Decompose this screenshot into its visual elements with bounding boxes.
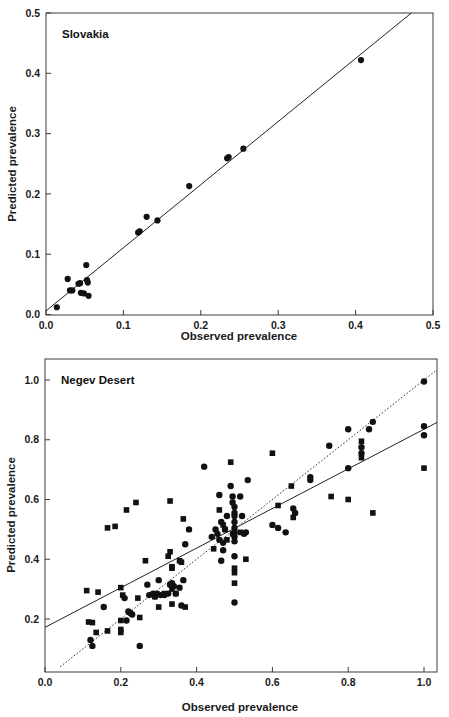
data-point-circle bbox=[54, 304, 60, 310]
data-point-square bbox=[135, 595, 141, 601]
data-point-square bbox=[181, 516, 187, 522]
data-point-square bbox=[224, 537, 230, 543]
data-point-square bbox=[167, 549, 173, 555]
data-point-square bbox=[118, 585, 124, 591]
data-point-circle bbox=[209, 534, 215, 540]
data-point-circle bbox=[231, 538, 237, 544]
data-point-square bbox=[169, 601, 175, 607]
figure-container: 0.00.10.20.30.40.50.00.10.20.30.40.5 Slo… bbox=[0, 0, 449, 717]
data-points-bottom bbox=[84, 378, 427, 649]
x-tick-label-5: 0.5 bbox=[426, 319, 441, 331]
panel-negev-desert: 0.00.20.40.60.81.00.20.40.60.81.0 Negev … bbox=[0, 345, 449, 717]
panel-slovakia: 0.00.10.20.30.40.50.00.10.20.30.40.5 Slo… bbox=[0, 0, 449, 345]
fit-lines-top bbox=[46, 13, 411, 311]
plot-svg-top: 0.00.10.20.30.40.50.00.10.20.30.40.5 Slo… bbox=[0, 0, 449, 345]
data-point-square bbox=[105, 628, 111, 634]
x-tick-label-4: 0.8 bbox=[341, 676, 356, 688]
data-point-square bbox=[179, 559, 185, 565]
data-point-square bbox=[359, 438, 365, 444]
data-point-circle bbox=[224, 513, 230, 519]
data-point-circle bbox=[186, 526, 192, 532]
y-tick-label-4: 0.4 bbox=[25, 67, 40, 79]
y-tick-label-2: 0.2 bbox=[25, 188, 40, 200]
data-point-square bbox=[232, 580, 238, 586]
data-point-circle bbox=[214, 531, 220, 537]
data-point-circle bbox=[65, 276, 71, 282]
data-point-circle bbox=[123, 617, 129, 623]
y-tick-label-0: 0.2 bbox=[24, 613, 39, 625]
y-tick-label-3: 0.3 bbox=[25, 127, 40, 139]
x-tick-label-3: 0.6 bbox=[265, 676, 280, 688]
data-point-square bbox=[228, 459, 234, 465]
x-tick-label-1: 0.1 bbox=[116, 319, 131, 331]
data-point-circle bbox=[345, 426, 351, 432]
data-point-circle bbox=[218, 558, 224, 564]
data-point-circle bbox=[229, 493, 235, 499]
data-point-square bbox=[345, 497, 351, 503]
data-points-top bbox=[54, 57, 364, 310]
data-point-circle bbox=[307, 477, 313, 483]
y-tick-label-2: 0.6 bbox=[24, 493, 39, 505]
data-point-square bbox=[243, 556, 249, 562]
data-point-square bbox=[133, 500, 139, 506]
data-point-circle bbox=[421, 423, 427, 429]
data-point-circle bbox=[101, 604, 107, 610]
data-point-square bbox=[290, 515, 296, 521]
data-point-square bbox=[156, 604, 162, 610]
data-point-circle bbox=[231, 513, 237, 519]
data-point-circle bbox=[240, 146, 246, 152]
data-point-square bbox=[118, 630, 124, 636]
panel-title-slovakia: Slovakia bbox=[62, 28, 109, 40]
data-point-circle bbox=[421, 378, 427, 384]
data-point-circle bbox=[237, 493, 243, 499]
y-tick-label-5: 0.5 bbox=[25, 7, 40, 19]
data-point-square bbox=[162, 591, 168, 597]
data-point-circle bbox=[85, 279, 91, 285]
data-point-circle bbox=[144, 214, 150, 220]
data-point-square bbox=[167, 498, 173, 504]
data-point-circle bbox=[89, 643, 95, 649]
data-point-square bbox=[230, 531, 236, 537]
data-point-circle bbox=[231, 504, 237, 510]
data-point-circle bbox=[358, 444, 364, 450]
data-point-square bbox=[211, 546, 217, 552]
data-point-circle bbox=[176, 584, 182, 590]
data-point-circle bbox=[186, 183, 192, 189]
data-point-square bbox=[124, 507, 130, 513]
data-point-circle bbox=[137, 228, 143, 234]
data-point-circle bbox=[245, 477, 251, 483]
data-point-square bbox=[118, 618, 124, 624]
data-point-circle bbox=[154, 217, 160, 223]
data-point-circle bbox=[144, 581, 150, 587]
y-tick-label-1: 0.4 bbox=[24, 553, 39, 565]
data-point-circle bbox=[370, 419, 376, 425]
x-tick-label-2: 0.4 bbox=[189, 676, 204, 688]
fit-lines-bottom bbox=[45, 368, 447, 667]
data-point-square bbox=[84, 588, 90, 594]
data-point-square bbox=[169, 565, 175, 571]
data-point-square bbox=[90, 620, 96, 626]
regression-line bbox=[45, 417, 447, 627]
data-point-circle bbox=[87, 637, 93, 643]
data-point-square bbox=[173, 591, 179, 597]
data-point-circle bbox=[220, 547, 226, 553]
data-point-circle bbox=[366, 426, 372, 432]
data-point-circle bbox=[231, 519, 237, 525]
data-point-circle bbox=[216, 492, 222, 498]
axis-ticks-top bbox=[46, 13, 433, 315]
data-point-circle bbox=[275, 525, 281, 531]
data-point-circle bbox=[231, 599, 237, 605]
data-point-square bbox=[154, 591, 160, 597]
x-tick-label-0: 0.0 bbox=[38, 676, 53, 688]
data-point-circle bbox=[77, 280, 83, 286]
data-point-square bbox=[105, 525, 111, 531]
data-point-square bbox=[370, 510, 376, 516]
x-tick-label-4: 0.4 bbox=[348, 319, 363, 331]
identity-line bbox=[60, 368, 439, 667]
data-point-square bbox=[270, 450, 276, 456]
y-axis-title-top: Predicted prevalence bbox=[6, 106, 18, 222]
data-point-circle bbox=[326, 443, 332, 449]
panel-title-negev: Negev Desert bbox=[61, 374, 135, 386]
data-point-circle bbox=[137, 643, 143, 649]
data-point-circle bbox=[83, 262, 89, 268]
